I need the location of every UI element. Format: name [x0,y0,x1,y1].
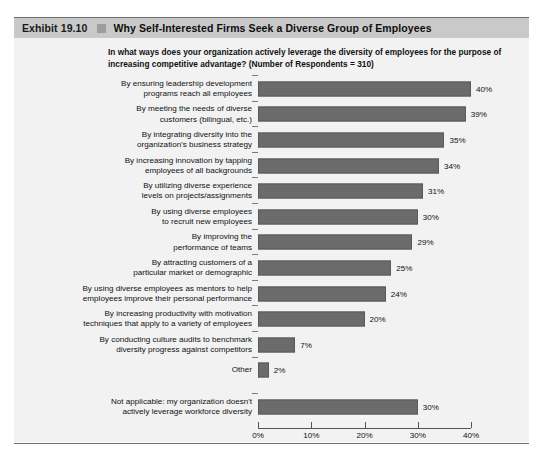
bar [258,363,269,378]
bar-row: Not applicable: my organization doesn'ta… [14,394,529,420]
bar-category-label: By using diverse employees as mentors to… [20,283,252,304]
x-axis-tick [418,422,419,428]
bar-value-label: 2% [274,366,286,375]
category-tick-mark [252,126,258,127]
category-tick-mark [252,75,258,76]
category-tick-mark [252,177,258,178]
category-tick-mark [252,280,258,281]
x-axis-tick-label: 40% [463,431,479,440]
bar-row: Other2% [14,358,529,384]
bar-row: By ensuring leadership developmentprogra… [14,76,529,102]
bar-row: By conducting culture audits to benchmar… [14,332,529,358]
category-tick-mark [252,254,258,255]
bar-category-label: Not applicable: my organization doesn'ta… [20,397,252,418]
bar [258,337,295,352]
bar-row: By using diverse employees as mentors to… [14,281,529,307]
bar-value-label: 30% [423,402,439,411]
bar-value-label: 40% [476,84,492,93]
x-axis-tick-label: 30% [410,431,426,440]
bar-value-label: 34% [444,161,460,170]
category-tick-mark [252,357,258,358]
bar [258,209,418,224]
bar-value-label: 35% [449,135,465,144]
bar-value-label: 30% [423,212,439,221]
bar-category-label: Other [20,365,252,375]
bar-value-label: 29% [417,238,433,247]
bar [258,158,439,173]
category-tick-mark [252,203,258,204]
bar-row: By integrating diversity into theorganiz… [14,127,529,153]
bar-row: By meeting the needs of diversecustomers… [14,102,529,128]
bar-row: By utilizing diverse experiencelevels on… [14,178,529,204]
bottom-rule [14,443,529,444]
exhibit-header-band: Exhibit 19.10 Why Self-Interested Firms … [14,18,529,38]
bar [258,107,466,122]
bar-value-label: 39% [471,110,487,119]
bar-category-label: By ensuring leadership developmentprogra… [20,79,252,100]
bar-category-label: By utilizing diverse experiencelevels on… [20,181,252,202]
bar-chart: By ensuring leadership developmentprogra… [14,76,529,442]
x-axis-tick [471,422,472,428]
bar-value-label: 7% [300,340,312,349]
bar [258,184,423,199]
bar-value-label: 24% [391,289,407,298]
bar [258,260,391,275]
bar-category-label: By meeting the needs of diversecustomers… [20,104,252,125]
x-axis-tick [258,422,259,428]
bar-value-label: 25% [396,263,412,272]
category-tick-mark [252,229,258,230]
bar-row: By improving theperformance of teams29% [14,230,529,256]
category-tick-mark [252,152,258,153]
bar-category-label: By conducting culture audits to benchmar… [20,334,252,355]
category-tick-mark [252,331,258,332]
x-axis-tick-label: 20% [356,431,372,440]
x-axis-tick-label: 10% [303,431,319,440]
category-tick-mark [252,101,258,102]
exhibit-title: Why Self-Interested Firms Seek a Diverse… [114,22,432,34]
bar [258,132,444,147]
bar-category-label: By integrating diversity into theorganiz… [20,130,252,151]
bar-value-label: 20% [370,315,386,324]
bar-category-label: By improving theperformance of teams [20,232,252,253]
bar-row: By using diverse employeesto recruit new… [14,204,529,230]
bar-row: By increasing productivity with motivati… [14,306,529,332]
exhibit-figure: Exhibit 19.10 Why Self-Interested Firms … [0,0,543,450]
exhibit-number: Exhibit 19.10 [22,22,88,34]
chart-question-subtitle: In what ways does your organization acti… [108,47,508,70]
bar-category-label: By using diverse employeesto recruit new… [20,206,252,227]
bar-value-label: 31% [428,187,444,196]
x-axis-tick [365,422,366,428]
bar-category-label: By increasing innovation by tappingemplo… [20,155,252,176]
bar-row: By increasing innovation by tappingemplo… [14,153,529,179]
bar-category-label: By attracting customers of aparticular m… [20,258,252,279]
bar [258,235,412,250]
bar-row: By attracting customers of aparticular m… [14,255,529,281]
bar [258,399,418,414]
bar [258,286,386,301]
header-square-icon [97,24,106,33]
chart-panel: In what ways does your organization acti… [14,38,529,442]
bar [258,81,471,96]
x-axis-line [258,428,471,429]
bar-category-label: By increasing productivity with motivati… [20,309,252,330]
category-tick-mark [252,393,258,394]
x-axis-tick-label: 0% [252,431,264,440]
bar-rows: By ensuring leadership developmentprogra… [14,76,529,420]
bar [258,312,365,327]
category-tick-mark [252,305,258,306]
x-axis-tick [311,422,312,428]
